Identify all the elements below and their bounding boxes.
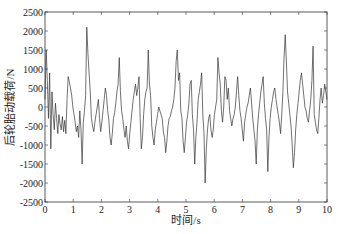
x-tick-label: 9 (296, 204, 301, 215)
x-tick-label: 10 (322, 204, 332, 215)
x-tick-label: 6 (212, 204, 217, 215)
x-tick-label: 8 (268, 204, 273, 215)
x-tick-label: 1 (71, 204, 76, 215)
y-tick-label: -2500 (20, 197, 43, 208)
x-tick-label: 7 (240, 204, 245, 215)
x-tick-label: 0 (43, 204, 48, 215)
y-tick-label: -1500 (20, 159, 43, 170)
y-tick-label: -2000 (20, 178, 43, 189)
y-axis-label: 后轮胎动载荷/N (3, 68, 16, 145)
y-tick-label: 1500 (23, 45, 43, 56)
chart: 25002000150010005000-500-1000-1500-2000-… (0, 0, 338, 234)
x-tick-label: 2 (99, 204, 104, 215)
y-tick-label: -500 (25, 121, 43, 132)
x-tick-label: 3 (127, 204, 132, 215)
y-tick-label: -1000 (20, 140, 43, 151)
y-tick-label: 2500 (23, 7, 43, 18)
x-tick-label: 4 (155, 204, 160, 215)
y-tick-label: 0 (38, 102, 43, 113)
plot-area (45, 12, 327, 202)
y-tick-label: 500 (28, 83, 43, 94)
y-tick-label: 1000 (23, 64, 43, 75)
y-tick-label: 2000 (23, 26, 43, 37)
x-axis-label: 时间/s (171, 214, 200, 226)
